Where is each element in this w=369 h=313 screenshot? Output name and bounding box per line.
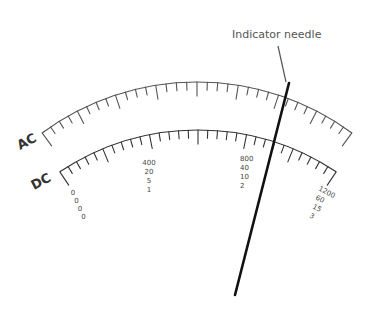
range-value: 5: [147, 177, 151, 185]
ac-scale: [42, 82, 352, 146]
indicator-needle-label: Indicator needle: [232, 28, 322, 41]
dc-scale-tick: [149, 135, 152, 149]
range-labels: 0000400205180040102120060153: [71, 155, 337, 221]
ac-scale-tick: [146, 87, 148, 95]
quarter-column: 4002051: [142, 159, 155, 194]
dc-scale-tick: [244, 135, 247, 149]
range-value: 0: [78, 205, 82, 213]
meter-scale-diagram: 0000400205180040102120060153 AC DC Indic…: [0, 0, 369, 313]
dc-scale-tick: [316, 162, 320, 169]
dc-scale-tick: [178, 131, 179, 139]
range-value: 1: [147, 186, 151, 194]
twothird-column: 80040102: [240, 155, 253, 190]
ac-scale-tick: [125, 92, 127, 100]
range-value: 2: [240, 182, 244, 190]
ac-scale-tick: [96, 102, 99, 109]
ac-scale-tick: [236, 85, 238, 99]
dc-scale-tick: [140, 137, 142, 145]
dc-scale-tick: [76, 162, 80, 169]
dc-scale-tick: [254, 137, 256, 145]
ac-scale-tick: [42, 133, 51, 146]
ac-scale-tick: [342, 133, 351, 146]
dc-scale-tick: [68, 167, 72, 174]
range-value: 40: [240, 164, 249, 172]
dc-scale-tick: [299, 153, 302, 160]
ac-scale-tick: [87, 107, 90, 114]
zero-column: 0000: [71, 189, 86, 221]
ac-scale-tick: [115, 95, 119, 108]
dc-scale-tick: [103, 149, 108, 162]
ac-scale-tick: [295, 102, 298, 109]
dc-scale-label: DC: [28, 170, 53, 193]
range-value: 400: [142, 159, 155, 167]
ac-scale-tick: [59, 121, 63, 128]
dc-scale-tick: [94, 153, 97, 160]
dc-scale-tick: [112, 145, 115, 153]
dc-scale-tick: [85, 157, 89, 164]
ac-scale-tick: [331, 121, 335, 128]
dc-scale-tick: [324, 167, 328, 174]
ac-scale-tick: [304, 107, 307, 114]
range-value: 0: [71, 189, 75, 197]
ac-scale-tick: [166, 84, 167, 92]
range-value: 800: [240, 155, 253, 163]
dc-scale: [60, 130, 336, 185]
dc-scale-tick: [307, 157, 311, 164]
ac-scale-tick: [322, 116, 326, 123]
ac-scale-tick: [339, 127, 343, 134]
dc-scale-tick: [281, 145, 284, 153]
range-value: 0: [74, 197, 78, 205]
dc-scale-tick: [169, 132, 170, 140]
range-value: 3: [308, 212, 316, 221]
ac-scale-tick: [77, 111, 83, 123]
ac-scale-tick: [310, 111, 316, 123]
ac-scale-tick: [247, 87, 249, 95]
meter-scales: [42, 82, 352, 185]
dc-scale-tick: [327, 172, 336, 185]
ac-scale-tick: [257, 89, 259, 97]
callout-leader-line: [278, 46, 286, 82]
ac-scale-tick: [106, 98, 109, 105]
dc-scale-tick: [60, 172, 69, 185]
ac-scale-label: AC: [14, 130, 38, 152]
full-scale-column: 120060153: [308, 185, 336, 221]
ac-scale-tick: [156, 85, 158, 99]
dc-scale-tick: [217, 131, 218, 139]
ac-scale-tick: [274, 95, 278, 108]
ac-scale-tick: [266, 92, 268, 100]
ac-scale-tick: [217, 83, 218, 91]
range-value: 0: [81, 213, 85, 221]
dc-scale-tick: [288, 149, 293, 162]
ac-scale-tick: [68, 116, 72, 123]
dc-scale-tick: [236, 133, 237, 141]
ac-scale-tick: [227, 84, 228, 92]
dc-scale-tick: [263, 139, 265, 147]
range-value: 20: [145, 168, 154, 176]
ac-scale-tick: [135, 89, 137, 97]
ac-scale-tick: [51, 127, 55, 134]
range-value: 10: [240, 173, 249, 181]
ac-scale-tick: [176, 83, 177, 91]
dc-scale-tick: [131, 139, 133, 147]
dc-scale-tick: [226, 132, 227, 140]
dc-scale-tick: [121, 142, 123, 150]
dc-scale-tick: [159, 133, 160, 141]
